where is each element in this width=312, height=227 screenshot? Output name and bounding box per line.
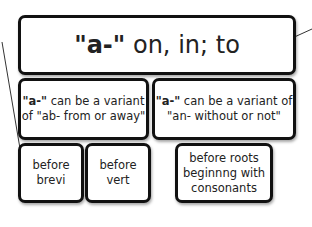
condition-text: brevi — [37, 173, 66, 187]
condition-text: vert — [106, 173, 129, 187]
condition-text: before — [99, 158, 136, 172]
variant-text: of "ab- from or away" — [22, 109, 146, 123]
condition-text: consonants — [191, 181, 257, 195]
variant-text: can be a variant of — [180, 94, 292, 108]
variant-prefix: "a-" — [23, 94, 48, 108]
root-meaning: on, in; to — [125, 31, 239, 59]
condition-text: before roots — [189, 151, 259, 165]
variant-text: "an- without or not" — [167, 109, 281, 123]
condition-brevi-box: beforebrevi — [18, 143, 84, 203]
variant-an-box: "a-" can be a variant of "an- without or… — [152, 78, 296, 140]
condition-text: beginnng with — [183, 166, 265, 180]
condition-text: before — [32, 158, 69, 172]
variant-ab-box: "a-" can be a variant of "ab- from or aw… — [18, 78, 149, 140]
root-prefix: "a-" — [74, 31, 125, 59]
condition-vert-box: beforevert — [85, 143, 151, 203]
variant-prefix: "a-" — [156, 94, 181, 108]
root-meaning-box: "a-" on, in; to — [18, 15, 296, 75]
variant-text: can be a variant — [47, 94, 144, 108]
condition-consonants-box: before rootsbeginnng withconsonants — [175, 143, 273, 203]
